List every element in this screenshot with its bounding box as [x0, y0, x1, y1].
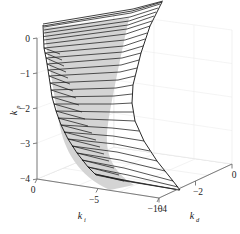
back-right-wall-grid: [114, 14, 232, 164]
x-axis-title-letter: k: [78, 210, 83, 221]
z-tick-0: 0: [25, 34, 30, 44]
z-tick-minus-4: −4: [20, 174, 30, 184]
y-tick-minus-2: −2: [193, 187, 203, 197]
z-tick-minus-3: −3: [20, 139, 30, 149]
y-axis-title: k d: [190, 210, 200, 223]
surface-plot-3d: 0 −1 −2 −3 −4 0 −5 −10 −4 −2 0 k p k i: [0, 0, 240, 234]
z-axis-title-subscript: p: [14, 105, 21, 110]
x-tick-minus-5: −5: [89, 195, 99, 205]
z-axis-tick-labels: 0 −1 −2 −3 −4: [20, 34, 30, 185]
z-tick-minus-2: −2: [20, 104, 30, 114]
figure-container: 0 −1 −2 −3 −4 0 −5 −10 −4 −2 0 k p k i: [0, 0, 240, 234]
x-axis-title: k i: [78, 210, 86, 223]
y-axis-title-letter: k: [190, 210, 195, 221]
z-axis-title-letter: k: [8, 110, 19, 115]
y-axis-title-subscript: d: [196, 216, 200, 223]
x-axis-title-subscript: i: [84, 216, 86, 223]
z-tick-minus-1: −1: [20, 69, 30, 79]
x-tick-0: 0: [31, 185, 36, 195]
y-tick-minus-4: −4: [157, 204, 167, 214]
y-tick-0: 0: [232, 170, 237, 180]
z-axis-title: k p: [8, 105, 21, 115]
